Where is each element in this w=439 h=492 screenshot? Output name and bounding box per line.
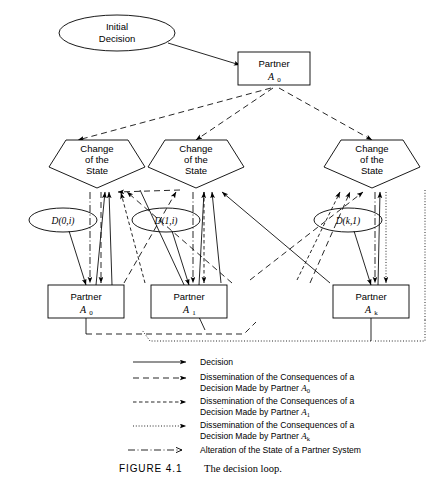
figure-decision-loop: Initial Decision Partner A 0 Change of t… [0, 0, 439, 492]
change-of-state-middle-line3: State [185, 165, 207, 176]
edge-top-to-state-left [78, 88, 271, 140]
edge-dash-a0-to-state-right [310, 192, 350, 283]
legend-a1-sub-index: 1 [307, 411, 310, 418]
bottom-partner-1-label: Partner [173, 291, 204, 302]
edge-dash-a0-to-state-right-b [250, 192, 363, 280]
legend-ak-line2-text: Decision Made by Partner [200, 431, 301, 441]
legend-a0-sub-index: 0 [307, 387, 310, 394]
decision-loop-diagram: Initial Decision Partner A 0 Change of t… [0, 0, 439, 492]
bottom-partner-k-subscript: A [364, 304, 372, 315]
bottom-partner-node-0: Partner A 0 [48, 285, 124, 318]
change-of-state-right-line3: State [361, 165, 383, 176]
legend-label-alteration: Alteration of the State of a Partner Sys… [200, 445, 361, 455]
initial-decision-node: Initial Decision [59, 15, 175, 51]
legend-row-decision: Decision [133, 357, 233, 367]
legend-a0-line2-text: Decision Made by Partner [200, 383, 301, 393]
initial-decision-label-line1: Initial [106, 21, 128, 32]
change-of-state-node-right: Change of the State [324, 140, 420, 188]
legend-label-ak-line2: Decision Made by Partner Ak [200, 431, 311, 442]
edge-dash-a1-to-state-left [121, 193, 145, 283]
edge-top-to-state-right [279, 88, 372, 140]
decision-ellipse-1-label: D(1,i) [154, 216, 178, 227]
bottom-partner-1-subscript-index: 1 [192, 309, 196, 317]
bottom-partner-k-label: Partner [355, 291, 386, 302]
rail-dash-a0-return [86, 322, 256, 334]
edge-d0-to-partner0 [69, 231, 86, 285]
decision-ellipse-node-1: D(1,i) [132, 208, 200, 232]
rail-dot-ak-return [142, 330, 371, 341]
bottom-partner-node-1: Partner A 1 [151, 285, 227, 318]
legend: Decision Dissemination of the Consequenc… [128, 357, 361, 455]
legend-label-a0-line1: Dissemination of the Consequences of a [200, 372, 355, 382]
top-partner-node: Partner A 0 [238, 52, 310, 85]
edge-partner0-to-state-left [96, 192, 105, 285]
edge-partner1-to-state-middle [199, 192, 204, 285]
bottom-partner-0-subscript: A [79, 304, 87, 315]
edge-partnerk-to-state-right [378, 192, 380, 285]
bottom-partner-0-subscript-index: 0 [89, 309, 93, 317]
figure-title: The decision loop. [204, 463, 282, 474]
change-of-state-node-left: Change of the State [49, 140, 145, 188]
legend-row-dissemination-ak: Dissemination of the Consequences of a D… [133, 420, 355, 442]
edge-dash-a1-to-state-right [297, 192, 340, 280]
legend-row-dissemination-a0: Dissemination of the Consequences of a D… [133, 372, 355, 394]
top-partner-subscript-index: 0 [277, 76, 281, 84]
change-of-state-left-line1: Change [80, 143, 113, 154]
legend-row-alteration: Alteration of the State of a Partner Sys… [128, 445, 361, 455]
bottom-partner-node-k: Partner A k [333, 285, 409, 318]
change-of-state-middle-line2: of the [184, 154, 208, 165]
edge-dash-a0-left-to-middle [124, 192, 176, 283]
change-of-state-right-line1: Change [355, 143, 388, 154]
legend-row-dissemination-a1: Dissemination of the Consequences of a D… [133, 396, 355, 418]
change-of-state-left-line2: of the [85, 154, 109, 165]
edge-partner0-state-left-b [109, 192, 112, 285]
legend-ak-sub-index: k [307, 435, 311, 442]
legend-a1-line2-text: Decision Made by Partner [200, 407, 301, 417]
edge-dk-to-partnerk [354, 231, 371, 285]
decision-ellipse-0-label: D(0,i) [51, 216, 75, 227]
edge-top-to-state-middle [196, 88, 273, 140]
change-of-state-left-line3: State [86, 165, 108, 176]
edge-dash-a0-cross-1 [118, 190, 180, 192]
change-of-state-right-line2: of the [360, 154, 384, 165]
legend-label-a0-line2: Decision Made by Partner A0 [200, 383, 310, 394]
decision-ellipse-node-k: D(k,1) [314, 208, 382, 232]
legend-label-a1-line2: Decision Made by Partner A1 [200, 407, 310, 418]
bottom-partner-0-label: Partner [70, 291, 101, 302]
rail-dot-ak-right [373, 320, 425, 341]
bottom-partner-k-subscript-index: k [374, 309, 378, 317]
initial-decision-label-line2: Decision [99, 33, 135, 44]
top-partner-subscript: A [267, 71, 275, 82]
edge-partnerk-to-state-middle [222, 192, 330, 283]
decision-ellipse-node-0: D(0,i) [29, 208, 97, 232]
change-of-state-node-middle: Change of the State [148, 140, 244, 188]
change-of-state-middle-line1: Change [179, 143, 212, 154]
bottom-partner-1-subscript: A [182, 304, 190, 315]
figure-number: FIGURE 4.1 [119, 463, 182, 474]
edge-initial-to-partner [168, 43, 240, 65]
figure-caption: FIGURE 4.1 The decision loop. [119, 463, 282, 474]
top-partner-label: Partner [258, 58, 289, 69]
legend-label-ak-line1: Dissemination of the Consequences of a [200, 420, 355, 430]
legend-label-a1-line1: Dissemination of the Consequences of a [200, 396, 355, 406]
legend-label-decision: Decision [200, 357, 233, 367]
